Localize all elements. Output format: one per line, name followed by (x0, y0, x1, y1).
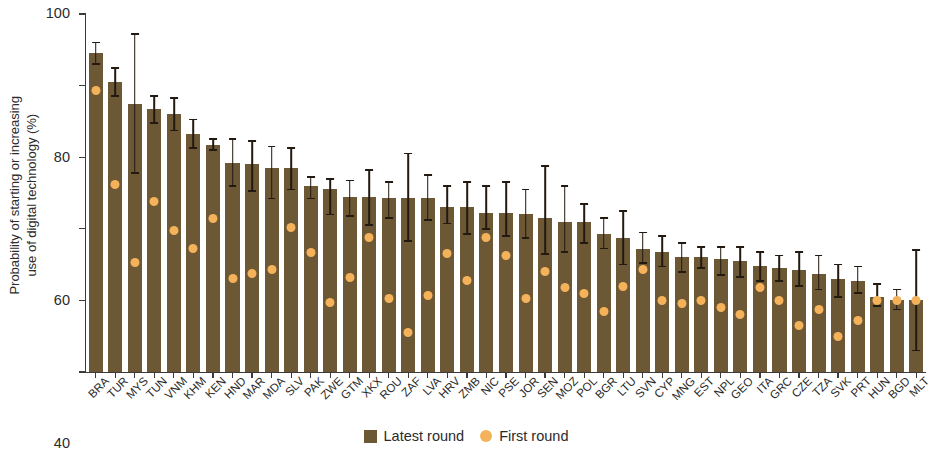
error-bar-cap-upper (111, 67, 119, 69)
first-round-dot (677, 299, 686, 308)
error-bar-cap-upper (580, 203, 588, 205)
error-bar-cap-lower (404, 240, 412, 242)
error-bar-cap-upper (717, 246, 725, 248)
error-bar-cap-upper (795, 251, 803, 253)
bar (206, 145, 220, 372)
error-bar-line (408, 154, 410, 242)
error-bar-cap-lower (678, 271, 686, 273)
first-round-dot (795, 321, 804, 330)
error-bar-cap-upper (365, 169, 373, 171)
error-bar-cap-lower (443, 223, 451, 225)
first-round-dot (599, 307, 608, 316)
y-tick-label: 100 (46, 5, 70, 21)
first-round-dot (482, 233, 491, 242)
error-bar-line (661, 236, 663, 266)
error-bar-line (349, 180, 351, 216)
bar (343, 197, 357, 372)
error-bar-line (779, 256, 781, 281)
legend-square-icon (364, 430, 377, 443)
first-round-dot (755, 283, 764, 292)
error-bar-cap-lower (580, 242, 588, 244)
error-bar-cap-upper (307, 176, 315, 178)
error-bar-cap-upper (639, 232, 647, 234)
error-bar-cap-lower (912, 350, 920, 352)
error-bar-line (857, 266, 859, 293)
bar (675, 257, 689, 372)
error-bar-line (622, 211, 624, 265)
first-round-dot (287, 223, 296, 232)
bar (870, 297, 884, 372)
error-bar-line (701, 247, 703, 268)
bar (225, 163, 239, 372)
first-round-dot (111, 180, 120, 189)
bar (440, 207, 454, 372)
legend-label-latest-round: Latest round (384, 428, 465, 444)
y-tick: 80 (79, 85, 86, 86)
first-round-dot (638, 265, 647, 274)
y-axis-label-container: Probability of starting or increasing us… (0, 0, 46, 390)
first-round-dot (853, 316, 862, 325)
error-bar-cap-upper (912, 249, 920, 251)
bar (147, 109, 161, 372)
error-bar-cap-upper (834, 264, 842, 266)
error-bar-cap-upper (815, 255, 823, 257)
error-bar-line (251, 141, 253, 191)
error-bar-cap-lower (307, 198, 315, 200)
error-bar-line (290, 148, 292, 189)
error-bar-cap-lower (639, 262, 647, 264)
error-bar-cap-lower (795, 285, 803, 287)
first-round-dot (716, 303, 725, 312)
error-bar-cap-lower (776, 280, 784, 282)
y-tick: 40 (79, 228, 86, 229)
error-bar-line (310, 177, 312, 198)
error-bar-line (720, 247, 722, 276)
error-bar-cap-lower (229, 185, 237, 187)
error-bar-cap-lower (717, 274, 725, 276)
first-round-dot (912, 296, 921, 305)
error-bar-cap-lower (658, 266, 666, 268)
error-bar-line (798, 252, 800, 286)
bar (89, 53, 103, 372)
first-round-dot (423, 291, 432, 300)
first-round-dot (345, 273, 354, 282)
error-bar-cap-upper (658, 235, 666, 237)
first-round-dot (248, 269, 257, 278)
first-round-dot (873, 296, 882, 305)
first-round-dot (736, 310, 745, 319)
error-bar-cap-upper (736, 246, 744, 248)
first-round-dot (521, 294, 530, 303)
error-bar-line (681, 243, 683, 272)
first-round-dot (541, 267, 550, 276)
error-bar-cap-upper (190, 119, 198, 121)
bar (421, 198, 435, 372)
error-bar-cap-upper (561, 185, 569, 187)
error-bar-line (427, 175, 429, 220)
bar (284, 168, 298, 372)
error-bar-cap-upper (619, 210, 627, 212)
error-bar-cap-lower (287, 189, 295, 191)
error-bar-cap-lower (502, 235, 510, 237)
chart-figure: Probability of starting or increasing us… (0, 0, 932, 457)
y-tick: 60 (79, 157, 86, 158)
bar (772, 268, 786, 372)
error-bar-line (173, 98, 175, 130)
error-bar-cap-lower (268, 198, 276, 200)
error-bar-cap-upper (170, 97, 178, 99)
error-bar-cap-upper (268, 146, 276, 148)
error-bar-line (193, 120, 195, 149)
error-bar-line (368, 170, 370, 225)
error-bar-cap-lower (111, 95, 119, 97)
first-round-dot (502, 251, 511, 260)
first-round-dot (697, 296, 706, 305)
error-bar-cap-lower (619, 264, 627, 266)
y-tick: 100 (79, 13, 86, 14)
error-bar-line (505, 182, 507, 236)
error-bar-cap-lower (736, 276, 744, 278)
error-bar-line (818, 256, 820, 290)
y-tick: 0 (79, 371, 86, 372)
error-bar-line (642, 232, 644, 262)
error-bar-cap-upper (424, 174, 432, 176)
error-bar-line (740, 247, 742, 277)
y-tick: 20 (79, 300, 86, 301)
first-round-dot (892, 296, 901, 305)
